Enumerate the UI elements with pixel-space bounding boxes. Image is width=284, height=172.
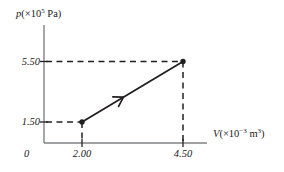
- y-axis-unit: Pa): [45, 8, 62, 19]
- x-axis-prefix: (×10: [219, 128, 239, 139]
- data-point-state-b: [180, 59, 185, 64]
- y-tick-label-550: 5.50: [4, 57, 40, 68]
- x-axis-suffix: ): [261, 128, 265, 139]
- y-axis-title: p(×105 Pa): [16, 9, 61, 20]
- x-axis-exponent: −3: [239, 127, 246, 135]
- x-axis-unit: m: [247, 128, 258, 139]
- process-line: [82, 62, 183, 123]
- x-tick-label-450: 4.50: [161, 149, 205, 160]
- data-point-state-a: [79, 119, 84, 124]
- origin-label: 0: [24, 149, 29, 160]
- y-tick-label-150: 1.50: [4, 117, 40, 128]
- plot-canvas: [0, 0, 284, 172]
- pv-diagram-figure: p(×105 Pa) V(×10−3 m3) 5.50 1.50 2.00 4.…: [0, 0, 284, 172]
- x-axis-title: V(×10−3 m3): [213, 129, 265, 140]
- y-axis-prefix: (×10: [21, 8, 41, 19]
- x-tick-label-200: 2.00: [60, 149, 104, 160]
